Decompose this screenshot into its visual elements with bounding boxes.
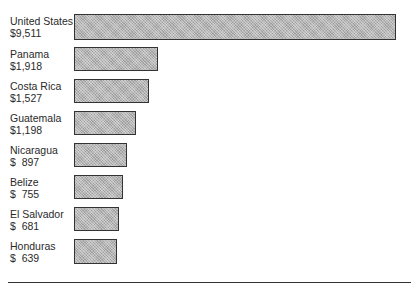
row-label: Costa Rica $1,527	[10, 80, 61, 104]
row-label: Panama $1,918	[10, 48, 49, 72]
bar-united-states	[74, 14, 396, 40]
country-name: Belize	[10, 176, 39, 188]
row-label: Belize $ 755	[10, 176, 39, 200]
bottom-rule	[8, 282, 411, 283]
bar-costa-rica	[74, 79, 149, 103]
bar-nicaragua	[74, 143, 127, 167]
bar-guatemala	[74, 111, 136, 135]
chart-row-costa-rica: Costa Rica $1,527	[0, 79, 411, 111]
row-label: Honduras $ 639	[10, 240, 56, 264]
chart-row-el-salvador: El Salvador $ 681	[0, 207, 411, 239]
value-label: $1,198	[10, 124, 61, 136]
country-name: Costa Rica	[10, 80, 61, 92]
bar-belize	[74, 175, 123, 199]
value-label: $ 755	[10, 188, 39, 200]
country-name: El Salvador	[10, 208, 64, 220]
row-label: Nicaragua $ 897	[10, 144, 58, 168]
chart-row-honduras: Honduras $ 639	[0, 239, 411, 271]
bar-el-salvador	[74, 207, 119, 231]
chart-row-nicaragua: Nicaragua $ 897	[0, 143, 411, 175]
chart-row-panama: Panama $1,918	[0, 47, 411, 79]
value-label: $ 897	[10, 156, 58, 168]
row-label: El Salvador $ 681	[10, 208, 64, 232]
value-label: $ 681	[10, 220, 64, 232]
country-name: Guatemala	[10, 112, 61, 124]
value-label: $1,527	[10, 92, 61, 104]
country-name: Honduras	[10, 240, 56, 252]
chart-row-united-states: United States $9,511	[0, 14, 411, 46]
country-name: Panama	[10, 48, 49, 60]
value-label: $1,918	[10, 60, 49, 72]
row-label: Guatemala $1,198	[10, 112, 61, 136]
country-name: United States	[10, 15, 73, 27]
bar-honduras	[74, 239, 117, 264]
chart-row-belize: Belize $ 755	[0, 175, 411, 207]
bar-panama	[74, 47, 158, 71]
chart-row-guatemala: Guatemala $1,198	[0, 111, 411, 143]
row-label: United States $9,511	[10, 15, 73, 39]
country-name: Nicaragua	[10, 144, 58, 156]
value-label: $9,511	[10, 27, 73, 39]
value-label: $ 639	[10, 252, 56, 264]
